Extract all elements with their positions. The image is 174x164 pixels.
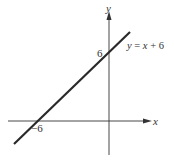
x-axis-label: x	[152, 115, 158, 127]
x-intercept-label: −6	[31, 122, 43, 134]
graph-figure: y x y = x + 6 6 −6	[0, 0, 174, 164]
y-intercept-label: 6	[97, 47, 103, 59]
x-axis-arrow-icon	[143, 119, 152, 124]
y-axis-label: y	[105, 2, 111, 14]
equation-label: y = x + 6	[126, 40, 164, 51]
graph-canvas: y x y = x + 6 6 −6	[0, 0, 174, 164]
